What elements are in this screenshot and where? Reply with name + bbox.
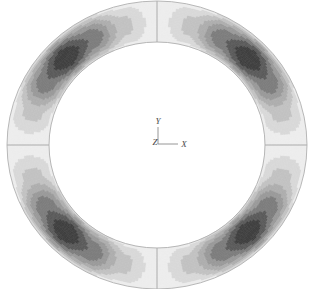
- axis-x-label: X: [180, 139, 187, 149]
- contour-plot: YXZ: [0, 0, 313, 289]
- figure-canvas: YXZ: [0, 0, 313, 289]
- axis-y-label: Y: [155, 116, 161, 126]
- coordinate-axis-triad: YXZ: [152, 116, 187, 149]
